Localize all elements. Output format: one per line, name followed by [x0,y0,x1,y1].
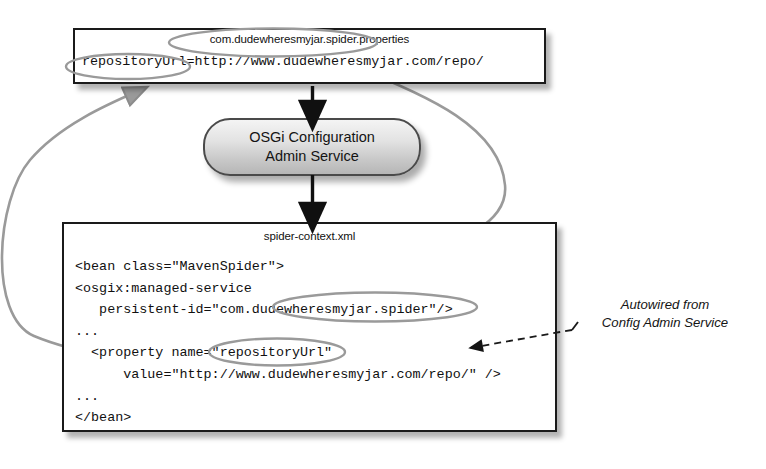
properties-file-box: com.dudewheresmyjar.spider.properties re… [73,28,546,84]
xml-file-content: <bean class="MavenSpider"> <osgix:manage… [75,256,501,429]
properties-file-content: repositoryUrl=http://www.dudewheresmyjar… [82,54,484,69]
xml-file-caption: spider-context.xml [64,230,555,242]
service-node-line-2: Admin Service [265,147,358,166]
autowired-annotation-line-2: Config Admin Service [572,314,758,332]
diagram-canvas: com.dudewheresmyjar.spider.properties re… [0,0,766,469]
autowired-annotation-line-1: Autowired from [572,296,758,314]
osgi-config-admin-service-node: OSGi Configuration Admin Service [203,118,421,176]
autowired-annotation: Autowired from Config Admin Service [572,296,758,331]
service-node-line-1: OSGi Configuration [249,128,375,147]
xml-file-box: spider-context.xml <bean class="MavenSpi… [62,222,557,432]
properties-file-caption: com.dudewheresmyjar.spider.properties [75,33,544,45]
